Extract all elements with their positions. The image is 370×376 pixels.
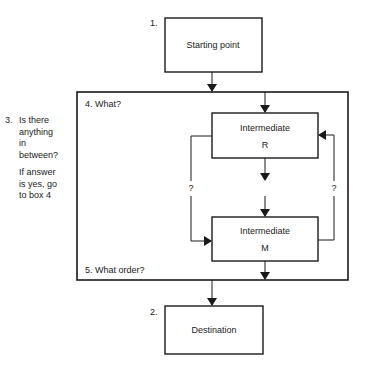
start-number: 1.: [150, 18, 158, 28]
followup-line-3: to box 4: [19, 190, 51, 200]
container-top-label: 4. What?: [85, 99, 121, 109]
container-bottom-label: 5. What order?: [85, 265, 145, 275]
destination-number: 2.: [150, 307, 158, 317]
question-line-3: in: [19, 138, 26, 148]
intermediate-r-node: Intermediate R: [212, 113, 318, 158]
destination-node: 2. Destination: [150, 306, 263, 354]
right-loop-question: ?: [331, 183, 336, 193]
intermediate-r-box: [212, 113, 318, 158]
intermediate-m-title: Intermediate: [240, 226, 290, 236]
left-loop-lower: [191, 196, 211, 241]
start-node: 1. Starting point: [150, 18, 262, 72]
intermediate-m-letter: M: [261, 243, 269, 253]
intermediate-r-title: Intermediate: [240, 123, 290, 133]
followup-line-1: If answer: [19, 167, 56, 177]
right-loop-lower: [318, 196, 334, 240]
question-annotation: 3. Is there anything in between? If answ…: [5, 115, 75, 208]
question-text: Is there anything in between?: [19, 115, 75, 161]
right-loop-m-to-r: ?: [318, 135, 337, 240]
start-label: Starting point: [186, 40, 240, 50]
question-followup: If answer is yes, go to box 4: [19, 167, 75, 202]
right-loop-upper: [319, 135, 334, 181]
left-loop-upper: [191, 136, 212, 181]
intermediate-r-letter: R: [262, 140, 269, 150]
intermediate-m-box: [212, 217, 318, 261]
question-number: 3.: [5, 115, 13, 127]
followup-line-2: is yes, go: [19, 179, 57, 189]
intermediate-m-node: Intermediate M: [212, 217, 318, 261]
question-line-4: between?: [19, 150, 58, 160]
question-line-1: Is there: [19, 115, 49, 125]
left-loop-question: ?: [188, 183, 193, 193]
left-loop-r-to-m: ?: [188, 136, 212, 241]
destination-label: Destination: [191, 325, 236, 335]
question-line-2: anything: [19, 127, 53, 137]
